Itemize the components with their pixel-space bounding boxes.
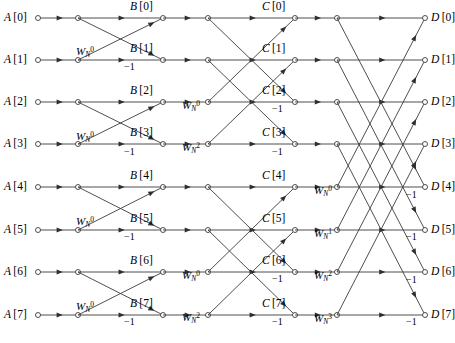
input-label-[1]: A [1] <box>4 54 27 66</box>
input-label-[2]: A [2] <box>4 96 27 108</box>
output-label-[3]: D [3] <box>431 138 455 150</box>
output-label-[2]: D [2] <box>431 96 455 108</box>
stage3-right-node-0 <box>423 16 428 21</box>
input-label-[0]: A [0] <box>4 12 27 24</box>
stage2-through-arrow-0 <box>250 16 256 21</box>
output-label-[5]: D [5] <box>431 224 455 236</box>
stage1-through-arrow-2 <box>119 100 125 105</box>
stage2-minus-one-row-2: −1 <box>272 104 283 114</box>
stage1-cross-arrow-7-6 <box>148 276 155 281</box>
stage3-cross-arrow-6-2 <box>411 119 416 126</box>
stage1-minus-one-row-3: −1 <box>124 147 135 157</box>
input-lead-arrow-2 <box>57 100 63 105</box>
input-node-3 <box>36 142 41 147</box>
input-node-2 <box>36 100 41 105</box>
stage3-minus-one-row-6: −1 <box>406 275 417 285</box>
stage3-through-arrow-7 <box>379 313 385 318</box>
stage2-twiddle-row-7: WN2 <box>182 312 200 325</box>
stage3-right-node-5 <box>423 228 428 233</box>
stage3-right-node-3 <box>423 142 428 147</box>
input-node-4 <box>36 185 41 190</box>
stage3-minus-one-row-4: −1 <box>406 190 417 200</box>
stage3-right-node-1 <box>423 58 428 63</box>
stage3-twiddle-row-6: WN2 <box>314 270 332 283</box>
fft-butterfly-diagram: A [0]A [1]A [2]A [3]A [4]A [5]A [6]A [7]… <box>0 0 455 343</box>
output-label-[4]: D [4] <box>431 181 455 193</box>
stage2-twiddle-row-3: WN2 <box>182 142 200 155</box>
input-label-[3]: A [3] <box>4 138 27 150</box>
input-lead-arrow-5 <box>57 228 63 233</box>
input-node-7 <box>36 313 41 318</box>
input-label-[4]: A [4] <box>4 181 27 193</box>
input-lead-arrow-0 <box>57 16 63 21</box>
stage2-through-arrow-4 <box>250 185 256 190</box>
stage1-twiddle-row-7: WN0 <box>76 301 94 314</box>
stage3-right-node-7 <box>423 313 428 318</box>
input-lead-arrow-3 <box>57 142 63 147</box>
stage2-label-[4]: C [4] <box>262 170 285 182</box>
input-lead-arrow-7 <box>57 313 63 318</box>
stage1-label-[5]: B [5] <box>130 213 153 225</box>
input-lead-arrow-4 <box>57 185 63 190</box>
stage2-twiddle-row-2: WN0 <box>182 100 200 113</box>
stage3-through-arrow-0 <box>379 16 385 21</box>
stage2-through-arrow-3 <box>250 142 256 147</box>
stage2-label-[5]: C [5] <box>262 213 285 225</box>
stage1-cross-arrow-5-4 <box>148 191 155 196</box>
stage3-cross-arrow-2-6 <box>411 248 416 255</box>
twiddle-lead-s3-arrow-0 <box>315 16 321 21</box>
stage1-twiddle-row-5: WN0 <box>76 216 94 229</box>
input-node-1 <box>36 58 41 63</box>
twiddle-lead-s3-arrow-3 <box>315 142 321 147</box>
output-label-[7]: D [7] <box>431 309 455 321</box>
stage1-label-[7]: B [7] <box>130 298 153 310</box>
stage1-minus-one-row-7: −1 <box>124 317 135 327</box>
stage1-label-[6]: B [6] <box>130 255 153 267</box>
stage3-cross-arrow-5-1 <box>411 77 416 84</box>
input-node-0 <box>36 16 41 21</box>
stage2-label-[3]: C [3] <box>262 127 285 139</box>
stage1-minus-one-row-1: −1 <box>124 62 135 72</box>
stage2-label-[6]: C [6] <box>262 255 285 267</box>
input-node-6 <box>36 270 41 275</box>
output-label-[1]: D [1] <box>431 54 455 66</box>
stage2-minus-one-row-7: −1 <box>272 317 283 327</box>
input-label-[6]: A [6] <box>4 266 27 278</box>
stage1-label-[4]: B [4] <box>130 170 153 182</box>
stage1-through-arrow-6 <box>119 270 125 275</box>
stage3-cross-arrow-1-5 <box>411 206 416 213</box>
stage2-label-[1]: C [1] <box>262 43 285 55</box>
stage3-minus-one-row-7: −1 <box>406 317 417 327</box>
stage3-twiddle-row-5: WN1 <box>314 228 332 241</box>
stage3-right-node-4 <box>423 185 428 190</box>
stage1-label-[3]: B [3] <box>130 127 153 139</box>
input-label-[5]: A [5] <box>4 224 27 236</box>
output-label-[6]: D [6] <box>431 266 455 278</box>
stage2-minus-one-row-6: −1 <box>272 274 283 284</box>
stage3-through-arrow-6 <box>379 270 385 275</box>
stage1-label-[0]: B [0] <box>130 1 153 13</box>
input-lead-arrow-6 <box>57 270 63 275</box>
stage1-minus-one-row-5: −1 <box>124 232 135 242</box>
twiddle-lead-s2-arrow-0 <box>185 16 191 21</box>
stage2-label-[0]: C [0] <box>262 1 285 13</box>
stage1-label-[1]: B [1] <box>130 43 153 55</box>
stage1-twiddle-row-1: WN0 <box>76 46 94 59</box>
stage1-through-arrow-0 <box>119 16 125 21</box>
stage3-through-arrow-1 <box>379 58 385 63</box>
stage2-label-[2]: C [2] <box>262 85 285 97</box>
input-node-5 <box>36 228 41 233</box>
twiddle-lead-s3-arrow-1 <box>315 58 321 63</box>
stage1-cross-arrow-1-0 <box>148 22 155 27</box>
stage1-label-[2]: B [2] <box>130 85 153 97</box>
twiddle-lead-s2-arrow-4 <box>185 185 191 190</box>
output-label-[0]: D [0] <box>431 12 455 24</box>
stage2-through-arrow-7 <box>250 313 256 318</box>
stage1-through-arrow-4 <box>119 185 125 190</box>
stage3-cross-arrow-3-7 <box>411 291 416 298</box>
stage3-twiddle-row-7: WN3 <box>314 313 332 326</box>
stage3-right-node-2 <box>423 100 428 105</box>
stage3-minus-one-row-5: −1 <box>406 232 417 242</box>
stage1-cross-arrow-3-2 <box>148 106 155 111</box>
input-label-[7]: A [7] <box>4 309 27 321</box>
